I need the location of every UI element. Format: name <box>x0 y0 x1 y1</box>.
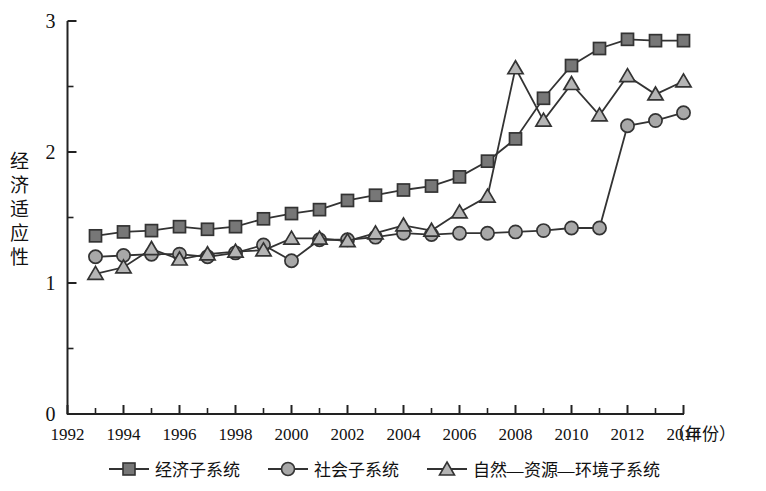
data-point-square <box>594 43 606 55</box>
x-axis-ticks <box>68 405 684 414</box>
data-point-square <box>398 184 410 196</box>
data-series-layer <box>88 33 691 279</box>
data-point-square <box>174 221 186 233</box>
data-point-square <box>622 33 634 45</box>
data-point-square <box>678 35 690 47</box>
series-square <box>90 33 690 242</box>
series-line <box>96 113 684 261</box>
series-line <box>96 39 684 236</box>
data-point-triangle <box>508 61 523 74</box>
series-line <box>96 68 684 274</box>
data-point-square <box>314 204 326 216</box>
legend-label-society: 社会子系统 <box>314 456 399 481</box>
data-point-triangle <box>536 113 551 126</box>
data-point-square <box>454 171 466 183</box>
y-tick-label: 3 <box>46 10 56 32</box>
data-point-square <box>146 225 158 237</box>
data-point-square <box>482 155 494 167</box>
legend-item-economy[interactable]: 经济子系统 <box>107 456 240 481</box>
x-tick-label: 2006 <box>443 425 477 444</box>
legend-marker-square-icon <box>107 460 151 478</box>
data-point-circle <box>677 106 690 119</box>
x-tick-label: 2004 <box>387 425 422 444</box>
data-point-triangle <box>396 218 411 231</box>
axis-lines <box>67 21 684 415</box>
x-tick-label: 2012 <box>611 425 645 444</box>
data-point-circle <box>481 227 494 240</box>
data-point-circle <box>509 225 522 238</box>
data-point-triangle <box>648 87 663 100</box>
y-axis-ticks <box>68 21 77 414</box>
data-point-square <box>258 213 270 225</box>
data-point-square <box>566 60 578 72</box>
data-point-square <box>342 194 354 206</box>
x-tick-label: 1996 <box>163 425 197 444</box>
x-axis-unit-label: （年份） <box>668 425 736 444</box>
data-point-circle <box>593 221 606 234</box>
data-point-square <box>650 35 662 47</box>
data-point-square <box>426 180 438 192</box>
series-circle <box>89 106 690 267</box>
data-point-circle <box>453 227 466 240</box>
data-point-square <box>90 230 102 242</box>
data-point-triangle <box>284 231 299 244</box>
y-tick-label: 2 <box>46 141 56 163</box>
data-point-circle <box>285 254 298 267</box>
y-axis-tick-labels: 0123 <box>46 10 56 425</box>
data-point-square <box>118 226 130 238</box>
data-point-circle <box>649 114 662 127</box>
x-axis-tick-labels: 1992199419961998200020022004200620082010… <box>51 425 702 444</box>
data-point-square <box>230 221 242 233</box>
data-point-triangle <box>676 74 691 87</box>
data-point-square <box>370 189 382 201</box>
series-triangle <box>88 61 691 280</box>
x-tick-label: 1992 <box>51 425 85 444</box>
chart-figure: 经 济 适 应 性 0123 1992199419961998200020022… <box>0 0 766 491</box>
legend-item-environment[interactable]: 自然—资源—环境子系统 <box>425 456 660 481</box>
data-point-circle <box>621 119 634 132</box>
x-tick-label: 1998 <box>219 425 253 444</box>
legend-label-economy: 经济子系统 <box>155 456 240 481</box>
data-point-square <box>538 92 550 104</box>
data-point-triangle <box>564 76 579 89</box>
data-point-triangle <box>480 189 495 202</box>
x-tick-label: 2002 <box>331 425 365 444</box>
data-point-triangle <box>452 205 467 218</box>
legend-marker-triangle-icon <box>425 460 469 478</box>
x-tick-label: 1994 <box>107 425 142 444</box>
x-tick-label: 2008 <box>499 425 533 444</box>
data-point-circle <box>537 224 550 237</box>
data-point-square <box>510 133 522 145</box>
legend-marker-circle-icon <box>266 460 310 478</box>
data-point-triangle <box>620 69 635 82</box>
data-point-square <box>286 208 298 220</box>
legend-label-environment: 自然—资源—环境子系统 <box>473 456 660 481</box>
data-point-circle <box>565 221 578 234</box>
data-point-triangle <box>144 242 159 255</box>
data-point-triangle <box>116 260 131 273</box>
y-tick-label: 1 <box>46 272 56 294</box>
plot-area: 0123 19921994199619982000200220042006200… <box>0 0 766 456</box>
chart-legend: 经济子系统 社会子系统 自然—资源—环境子系统 <box>0 456 766 481</box>
x-tick-label: 2000 <box>275 425 309 444</box>
data-point-square <box>202 223 214 235</box>
data-point-circle <box>89 250 102 263</box>
x-tick-label: 2010 <box>555 425 589 444</box>
y-tick-label: 0 <box>46 403 56 425</box>
legend-item-society[interactable]: 社会子系统 <box>266 456 399 481</box>
